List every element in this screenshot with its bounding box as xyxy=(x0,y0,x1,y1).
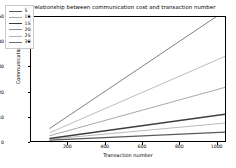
legend-label: 25 xyxy=(25,33,31,39)
x-axis-label: Transaction number xyxy=(30,152,226,158)
x-tick-label: 1000 xyxy=(205,144,229,149)
legend-swatch xyxy=(9,42,22,43)
legend-swatch xyxy=(9,11,22,12)
x-tick-label: 800 xyxy=(167,144,191,149)
x-tick-mark xyxy=(217,142,218,145)
y-tick-label: 30 xyxy=(0,64,4,69)
y-tick-mark xyxy=(28,142,31,143)
legend-item: 30 xyxy=(9,39,31,45)
legend-label: 20 xyxy=(25,27,31,33)
y-tick-mark xyxy=(28,16,31,17)
x-tick-mark xyxy=(105,142,106,145)
y-tick-label: 20 xyxy=(0,89,4,94)
legend: 51015202530 xyxy=(5,5,34,49)
y-tick-mark xyxy=(28,66,31,67)
legend-label: 5 xyxy=(25,8,28,14)
legend-label: 30 xyxy=(25,39,31,45)
y-tick-label: 50 xyxy=(0,14,4,19)
legend-swatch xyxy=(9,17,22,18)
series-line xyxy=(49,114,225,138)
series-line xyxy=(49,132,225,140)
x-tick-mark xyxy=(67,142,68,145)
legend-swatch xyxy=(9,36,22,37)
legend-swatch xyxy=(9,29,22,30)
x-tick-label: 200 xyxy=(55,144,79,149)
y-tick-label: 10 xyxy=(0,114,4,119)
y-tick-label: 40 xyxy=(0,39,4,44)
y-tick-mark xyxy=(28,92,31,93)
legend-label: 15 xyxy=(25,21,31,27)
figure: The relationship between communication c… xyxy=(0,0,236,168)
y-tick-mark xyxy=(28,41,31,42)
series-lines xyxy=(31,17,225,141)
plot-area xyxy=(30,16,226,142)
x-tick-label: 600 xyxy=(130,144,154,149)
x-tick-mark xyxy=(142,142,143,145)
x-tick-mark xyxy=(179,142,180,145)
x-tick-label: 400 xyxy=(93,144,117,149)
legend-swatch xyxy=(9,23,22,24)
y-tick-label: 0 xyxy=(0,140,4,145)
chart-title: The relationship between communication c… xyxy=(0,4,236,10)
y-tick-mark xyxy=(28,117,31,118)
